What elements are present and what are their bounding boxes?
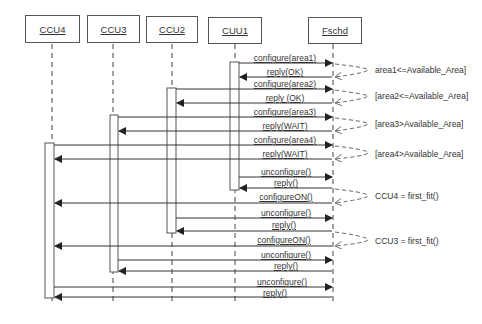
message-label: configure(area1) [254, 54, 316, 63]
activation-bars [45, 62, 239, 298]
message-label: reply(WAIT) [262, 150, 307, 159]
message-label: reply() [263, 289, 287, 298]
condition-note: area1<=Available_Area] [375, 66, 466, 75]
message-label: configureON() [257, 236, 310, 245]
activation-ccu2 [167, 88, 176, 233]
message-label: unconfigure() [257, 278, 307, 287]
message-label: configure(area3) [254, 108, 316, 117]
message-label: configureON() [259, 193, 312, 202]
message-label: configure(area2) [254, 80, 316, 89]
message-label: reply(WAIT) [262, 122, 307, 131]
message-label: unconfigure() [261, 168, 311, 177]
message-label: reply() [274, 262, 298, 271]
activation-ccu3 [110, 115, 118, 272]
message-label: reply() [272, 221, 296, 230]
condition-note: CCU3 = first_fit() [375, 237, 439, 246]
condition-note: [area2<=Available_Area] [375, 92, 468, 101]
message-label: reply(OK) [267, 68, 303, 77]
message-label: unconfigure() [261, 209, 311, 218]
condition-note: [area4>Available_Area] [375, 150, 463, 159]
message-label: reply (OK) [266, 94, 305, 103]
sequence-diagram-canvas [0, 0, 482, 324]
message-label: unconfigure() [261, 251, 311, 260]
activation-ccu4 [45, 143, 54, 298]
activation-cuu1 [230, 62, 239, 190]
condition-note: CCU4 = first_fit() [375, 192, 439, 201]
condition-note: [area3>Available_Area] [375, 120, 463, 129]
self-loops [335, 64, 368, 246]
message-label: reply() [274, 179, 298, 188]
message-label: configure(area4) [254, 136, 316, 145]
